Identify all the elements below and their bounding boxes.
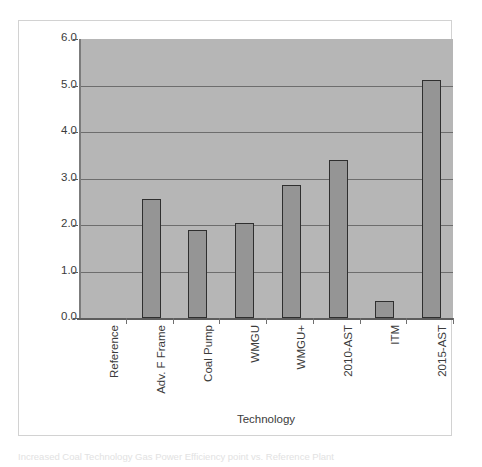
bar (282, 185, 301, 318)
x-axis-tick-mark (219, 318, 220, 324)
gridline (81, 272, 453, 273)
y-axis-tick-mark (73, 225, 78, 226)
bar (375, 301, 394, 318)
plot-area (79, 39, 453, 318)
y-axis-tick-label: 6.0 (37, 31, 77, 43)
y-axis-tick-label: 4.0 (37, 124, 77, 136)
gridline (81, 225, 453, 226)
y-axis-tick-mark (73, 39, 78, 40)
y-axis-tick-mark (73, 132, 78, 133)
y-axis-tick-label: 2.0 (37, 217, 77, 229)
x-axis-category-label: 2015-AST (436, 325, 450, 417)
x-axis-category-labels: ReferenceAdv. F FrameCoal PumpWMGUWMGU+2… (79, 325, 453, 417)
x-axis-tick-mark (453, 318, 454, 324)
x-axis-category-label: WMGU (249, 325, 263, 417)
bar (188, 230, 207, 318)
figure-caption: Increased Coal Technology Gas Power Effi… (18, 451, 458, 467)
x-axis-category-label: Coal Pump (202, 325, 216, 417)
x-axis-tick-mark (173, 318, 174, 324)
x-axis-tick-row (79, 318, 453, 324)
y-axis-tick-label: 3.0 (37, 171, 77, 183)
x-axis-title: Technology (79, 413, 453, 425)
y-axis-tick-label: 5.0 (37, 78, 77, 90)
y-axis-tick-column: 6.05.04.03.02.01.00.0 (33, 39, 77, 318)
plot-inner (81, 39, 453, 318)
figure-frame: Percentage Points 6.05.04.03.02.01.00.0 … (18, 20, 452, 436)
y-axis-tick-label: 1.0 (37, 264, 77, 276)
x-axis-tick-mark (406, 318, 407, 324)
y-axis-tick-mark (73, 86, 78, 87)
x-axis-tick-mark (360, 318, 361, 324)
x-axis-category-label: Adv. F Frame (155, 325, 169, 417)
gridline (81, 86, 453, 87)
x-axis-tick-mark (126, 318, 127, 324)
x-axis-tick-mark (313, 318, 314, 324)
y-axis-tick-mark (73, 179, 78, 180)
x-axis-category-label: ITM (389, 325, 403, 417)
bar (142, 199, 161, 318)
gridline (81, 132, 453, 133)
bar (235, 223, 254, 318)
y-axis-tick-label: 0.0 (37, 310, 77, 322)
x-axis-category-label: Reference (108, 325, 122, 417)
bar (329, 160, 348, 318)
y-axis-tick-mark (73, 272, 78, 273)
gridline (81, 179, 453, 180)
x-axis-category-label: 2010-AST (342, 325, 356, 417)
x-axis-category-label: WMGU+ (295, 325, 309, 417)
bar (422, 80, 441, 318)
x-axis-tick-mark (266, 318, 267, 324)
